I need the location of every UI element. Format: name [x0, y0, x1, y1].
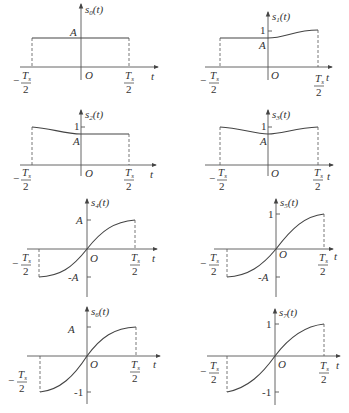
panel-s4: s4(t) A -A O t − Ts 2 Ts 2	[12, 196, 157, 297]
svg-text:-A: -A	[258, 271, 269, 283]
svg-text:Ts: Ts	[131, 358, 140, 372]
svg-text:O: O	[271, 167, 279, 179]
left-bound-label: − Ts 2	[13, 69, 31, 95]
svg-text:A: A	[259, 135, 267, 147]
svg-text:1: 1	[268, 208, 274, 220]
panel-s2: s2(t) 1 A O t − Ts 2 Ts 2	[13, 108, 156, 192]
svg-text:2: 2	[320, 265, 326, 277]
svg-text:O: O	[279, 248, 287, 260]
panel-s1: s1(t) 1 A O t − Ts 2 Ts 2	[200, 10, 332, 98]
panel-s3: s3(t) 1 A O t − Ts 2 Ts 2	[205, 108, 333, 192]
svg-text:Ts: Ts	[22, 166, 31, 180]
svg-text:−: −	[13, 172, 19, 184]
svg-text:Ts: Ts	[210, 359, 219, 373]
origin-label: O	[85, 69, 93, 81]
svg-text:2: 2	[19, 382, 25, 394]
svg-text:−: −	[200, 365, 206, 377]
svg-text:2: 2	[132, 372, 138, 384]
svg-text:Ts: Ts	[319, 251, 328, 265]
svg-text:−: −	[8, 374, 14, 386]
svg-text:O: O	[90, 358, 98, 370]
svg-text:t: t	[326, 71, 330, 83]
svg-text:−: −	[209, 172, 215, 184]
t-label: t	[151, 70, 155, 82]
svg-text:Ts: Ts	[315, 72, 324, 86]
waveform-s5	[227, 214, 324, 277]
ylabel-s0: s0(t)	[85, 3, 104, 17]
svg-text:−: −	[13, 74, 19, 86]
waveform-s2	[32, 127, 129, 134]
svg-text:−: −	[200, 257, 206, 269]
waveform-s3	[220, 127, 318, 134]
svg-text:Ts: Ts	[22, 251, 31, 265]
svg-text:Ts: Ts	[210, 251, 219, 265]
svg-text:Ts: Ts	[131, 251, 140, 265]
svg-text:Ts: Ts	[125, 166, 134, 180]
svg-text:O: O	[85, 167, 93, 179]
svg-text:s2(t): s2(t)	[85, 108, 104, 122]
svg-text:2: 2	[23, 83, 29, 95]
svg-text:-1: -1	[74, 386, 83, 398]
svg-text:2: 2	[126, 180, 132, 192]
svg-text:s4(t): s4(t)	[91, 196, 110, 210]
svg-text:1: 1	[261, 120, 267, 132]
svg-text:1: 1	[266, 318, 272, 330]
svg-text:t: t	[150, 168, 154, 180]
waveform-s7	[227, 324, 324, 392]
svg-text:-A: -A	[68, 271, 79, 283]
svg-text:t: t	[336, 359, 340, 371]
svg-text:2: 2	[211, 83, 217, 95]
svg-text:s7(t): s7(t)	[279, 306, 298, 320]
svg-text:Ts: Ts	[210, 69, 219, 83]
panel-s5: s5(t) 1 -A O t − Ts 2 Ts 2	[200, 196, 338, 297]
svg-text:s1(t): s1(t)	[272, 10, 291, 24]
signal-waveforms-figure: s0(t) A O t − Ts 2 Ts 2 s1(t) 1 A O t − …	[0, 0, 349, 413]
svg-text:Ts: Ts	[125, 69, 134, 83]
svg-text:t: t	[153, 358, 157, 370]
svg-text:−: −	[12, 257, 18, 269]
svg-text:O: O	[278, 358, 286, 370]
svg-text:2: 2	[211, 373, 217, 385]
svg-text:2: 2	[23, 180, 29, 192]
svg-text:Ts: Ts	[314, 166, 323, 180]
panel-s0: s0(t) A O t − Ts 2 Ts 2	[13, 3, 158, 95]
panel-s7: s7(t) 1 -1 O t − Ts 2 Ts 2	[200, 306, 340, 405]
svg-text:A: A	[67, 323, 75, 335]
svg-text:Ts: Ts	[18, 368, 27, 382]
svg-text:2: 2	[23, 265, 29, 277]
svg-text:Ts: Ts	[320, 359, 329, 373]
svg-text:Ts: Ts	[22, 69, 31, 83]
svg-text:2: 2	[132, 265, 138, 277]
right-bound-label: Ts 2	[124, 69, 134, 95]
svg-text:2: 2	[321, 373, 327, 385]
svg-text:−: −	[200, 74, 206, 86]
svg-text:2: 2	[211, 265, 217, 277]
svg-text:s6(t): s6(t)	[91, 305, 110, 319]
svg-text:t: t	[152, 252, 156, 264]
svg-text:1: 1	[260, 24, 266, 36]
panel-s6: s6(t) A -1 O t − Ts 2 Ts 2	[8, 305, 160, 404]
svg-text:2: 2	[315, 180, 321, 192]
svg-text:2: 2	[126, 83, 132, 95]
svg-text:1: 1	[74, 120, 80, 132]
svg-text:t: t	[334, 250, 338, 262]
svg-text:A: A	[72, 135, 80, 147]
svg-text:A: A	[258, 39, 266, 51]
waveform-s6	[40, 327, 136, 392]
svg-text:A: A	[75, 214, 83, 226]
svg-text:O: O	[271, 69, 279, 81]
svg-text:s3(t): s3(t)	[272, 108, 291, 122]
svg-text:O: O	[90, 252, 98, 264]
svg-text:s5(t): s5(t)	[280, 196, 299, 210]
ytick-top: A	[69, 26, 77, 38]
svg-text:t: t	[327, 170, 331, 182]
svg-text:-1: -1	[262, 386, 271, 398]
svg-text:Ts: Ts	[218, 166, 227, 180]
svg-text:2: 2	[219, 180, 225, 192]
svg-text:2: 2	[316, 86, 322, 98]
